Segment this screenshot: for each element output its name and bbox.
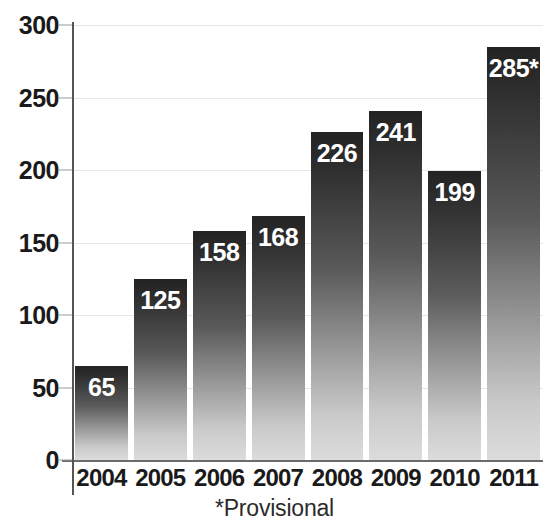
y-axis-tick-label: 50 bbox=[3, 375, 59, 400]
y-tick-mark-250 bbox=[59, 97, 72, 98]
bar-slot: 158 bbox=[193, 25, 246, 460]
y-tick-mark-50 bbox=[59, 387, 72, 388]
bar-value-label: 65 bbox=[75, 375, 128, 400]
bar-value-label: 285* bbox=[487, 56, 540, 81]
y-axis-tick-marks bbox=[59, 0, 72, 527]
provisional-footnote: *Provisional bbox=[0, 497, 549, 520]
x-axis-tick-label: 2009 bbox=[366, 466, 425, 490]
bar-chart: 65125158168226241199285* 300250200150100… bbox=[0, 0, 549, 527]
axis-baseline bbox=[62, 460, 543, 462]
y-tick-mark-150 bbox=[59, 242, 72, 243]
plot-area: 65125158168226241199285* bbox=[72, 25, 543, 460]
y-axis-line bbox=[72, 22, 74, 495]
bar[interactable]: 241 bbox=[369, 111, 422, 460]
y-tick-mark-100 bbox=[59, 315, 72, 316]
y-tick-mark-300 bbox=[59, 25, 72, 26]
x-axis-labels: 20042005200620072008200920102011 bbox=[72, 466, 543, 496]
bar[interactable]: 285* bbox=[487, 47, 540, 460]
bar-slot: 285* bbox=[487, 25, 540, 460]
bar-slot: 168 bbox=[252, 25, 305, 460]
y-tick-mark-0 bbox=[59, 460, 72, 461]
bar-slot: 65 bbox=[75, 25, 128, 460]
y-axis-tick-label: 200 bbox=[3, 158, 59, 183]
y-axis-tick-label: 300 bbox=[3, 13, 59, 38]
x-axis-tick-label: 2010 bbox=[425, 466, 484, 490]
y-axis-labels: 300250200150100500 bbox=[0, 0, 59, 527]
y-tick-mark-200 bbox=[59, 170, 72, 171]
bar-value-label: 226 bbox=[311, 141, 364, 166]
bar[interactable]: 226 bbox=[311, 132, 364, 460]
bars-group: 65125158168226241199285* bbox=[72, 25, 543, 460]
x-axis-tick-label: 2007 bbox=[249, 466, 308, 490]
x-axis-tick-label: 2004 bbox=[72, 466, 131, 490]
bar[interactable]: 199 bbox=[428, 171, 481, 460]
bar-slot: 199 bbox=[428, 25, 481, 460]
bar[interactable]: 125 bbox=[134, 279, 187, 460]
y-axis-tick-label: 100 bbox=[3, 303, 59, 328]
bar-value-label: 168 bbox=[252, 225, 305, 250]
y-axis-tick-label: 150 bbox=[3, 230, 59, 255]
y-axis-tick-label: 250 bbox=[3, 85, 59, 110]
x-axis-tick-label: 2008 bbox=[308, 466, 367, 490]
bar-value-label: 199 bbox=[428, 180, 481, 205]
bar[interactable]: 158 bbox=[193, 231, 246, 460]
x-axis-tick-label: 2011 bbox=[484, 466, 543, 490]
bar-slot: 125 bbox=[134, 25, 187, 460]
x-axis-tick-label: 2005 bbox=[131, 466, 190, 490]
bar[interactable]: 65 bbox=[75, 366, 128, 460]
bar[interactable]: 168 bbox=[252, 216, 305, 460]
bar-slot: 226 bbox=[311, 25, 364, 460]
y-axis-tick-label: 0 bbox=[3, 448, 59, 473]
bar-slot: 241 bbox=[369, 25, 422, 460]
bar-value-label: 241 bbox=[369, 120, 422, 145]
bar-value-label: 158 bbox=[193, 240, 246, 265]
x-axis-tick-label: 2006 bbox=[190, 466, 249, 490]
bar-value-label: 125 bbox=[134, 288, 187, 313]
